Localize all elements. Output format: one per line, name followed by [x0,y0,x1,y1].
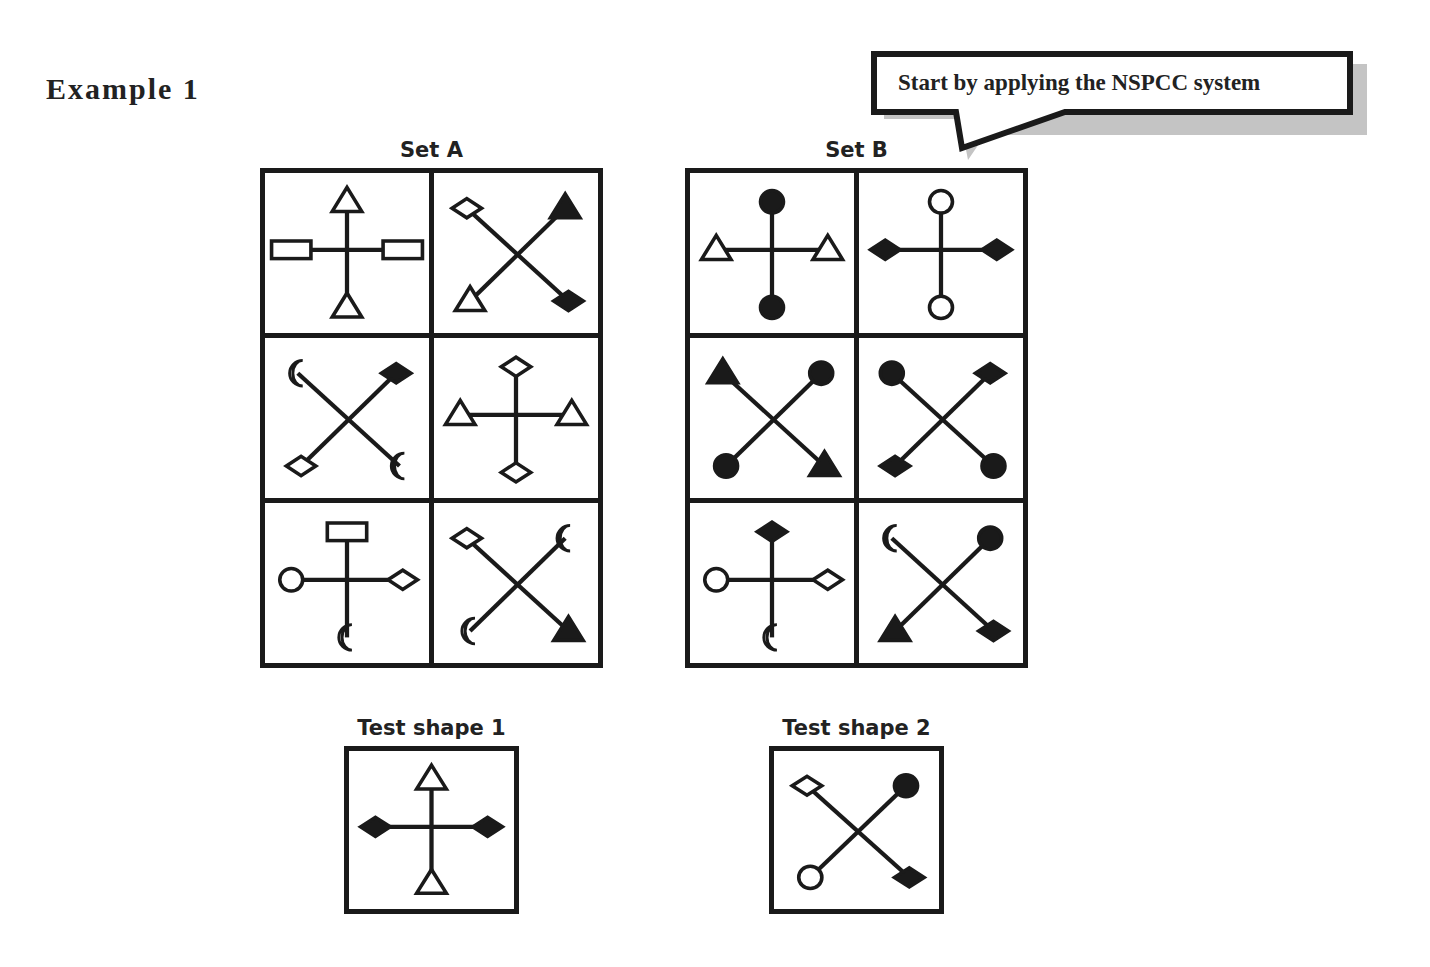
set-b-cell-6 [859,503,1023,663]
circle-filled-icon [761,296,784,318]
triangle-outline-icon [332,293,362,317]
figure-cross [690,173,854,333]
test-shape-2-label: Test shape 2 [755,716,958,740]
diamond-outline-icon [388,570,418,589]
set-a-grid [260,168,603,668]
triangle-filled-icon [708,359,738,383]
set-b-cell-2 [859,173,1023,333]
diamond-filled-icon [473,817,503,836]
circle-filled-icon [982,455,1005,477]
diamond-filled-icon [361,817,391,836]
test-shape-2 [769,746,944,914]
set-a-cell-5 [265,503,429,663]
figure-x [774,751,939,909]
set-b-label: Set B [685,138,1028,162]
crescent-outline-icon [339,625,352,651]
rectangle-outline-icon [327,523,366,541]
example-title: Example 1 [46,72,200,106]
circle-outline-icon [705,569,728,591]
diamond-filled-icon [870,240,900,259]
circle-filled-icon [979,527,1002,549]
figure-x [434,173,598,333]
diamond-outline-icon [813,570,843,589]
set-a-label: Set A [260,138,603,162]
figure-cross [434,338,598,498]
circle-filled-icon [810,362,833,384]
figure-x [434,503,598,663]
circle-filled-icon [894,775,917,797]
diamond-outline-icon [501,357,531,376]
circle-filled-icon [761,191,784,213]
figure-x [859,503,1023,663]
triangle-outline-icon [417,765,447,789]
set-a-cell-3 [265,338,429,498]
rectangle-outline-icon [383,241,422,259]
callout-text: Start by applying the NSPCC system [898,70,1260,96]
figure-x [265,338,429,498]
figure-cross [265,173,429,333]
triangle-outline-icon [417,870,447,894]
figure-cross [265,503,429,663]
figure-cross [859,173,1023,333]
diamond-outline-icon [501,463,531,482]
set-a-cell-1 [265,173,429,333]
figure-x [690,338,854,498]
circle-outline-icon [799,866,822,888]
diamond-filled-icon [757,522,787,541]
circle-outline-icon [280,569,303,591]
set-a-cell-6 [434,503,598,663]
triangle-outline-icon [701,235,731,259]
set-a-cell-2 [434,173,598,333]
test-shape-1 [344,746,519,914]
diamond-filled-icon [982,240,1012,259]
rectangle-outline-icon [272,241,311,259]
circle-outline-icon [930,296,953,318]
triangle-outline-icon [445,400,475,424]
set-a-cell-4 [434,338,598,498]
circle-filled-icon [715,455,738,477]
crescent-outline-icon [764,625,777,651]
diamond-filled-icon [975,364,1005,383]
set-b-cell-3 [690,338,854,498]
diamond-outline-icon [286,456,316,475]
triangle-outline-icon [813,235,843,259]
triangle-filled-icon [550,194,580,218]
circle-outline-icon [930,191,953,213]
set-b-cell-1 [690,173,854,333]
triangle-outline-icon [557,400,587,424]
set-b-grid [685,168,1028,668]
figure-cross [349,751,514,909]
set-b-cell-5 [690,503,854,663]
figure-cross [690,503,854,663]
test-shape-1-label: Test shape 1 [330,716,533,740]
diamond-filled-icon [880,456,910,475]
figure-x [859,338,1023,498]
set-b-cell-4 [859,338,1023,498]
triangle-outline-icon [332,187,362,211]
circle-filled-icon [880,362,903,384]
diamond-filled-icon [381,364,411,383]
